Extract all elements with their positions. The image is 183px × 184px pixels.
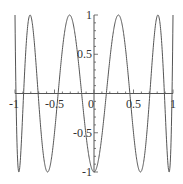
y-tick-label: -0.5: [73, 126, 92, 140]
x-tick-label: -0.5: [45, 97, 64, 111]
y-tick-label: -1: [82, 165, 92, 179]
chart-canvas: -1-0.500.51 -1-0.50.51: [0, 0, 183, 184]
x-tick-label: 1: [170, 97, 176, 111]
y-tick-label: 1: [86, 8, 92, 22]
x-tick-label: 0: [88, 97, 94, 111]
axes: [15, 15, 173, 172]
x-tick-label: -1: [9, 97, 19, 111]
x-axis-ticks: -1-0.500.51: [9, 97, 176, 111]
x-tick-label: 0.5: [126, 97, 141, 111]
y-tick-label: 0.5: [77, 47, 92, 61]
